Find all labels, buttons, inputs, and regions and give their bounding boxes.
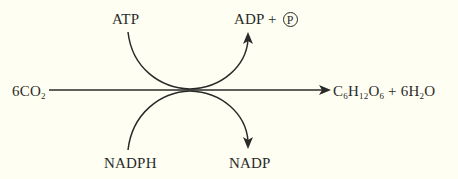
reactant-co2-label: 6CO2 bbox=[12, 83, 46, 99]
atp-label: ATP bbox=[112, 11, 139, 27]
product-glucose-water-label: C6H12O6 + 6H2O bbox=[333, 83, 435, 99]
adp-phosphate-label: ADP + P bbox=[234, 11, 298, 27]
water-h: 6H bbox=[401, 83, 420, 99]
circled-phosphate-icon: P bbox=[283, 12, 298, 27]
photosynthesis-reaction-diagram: 6CO2 C6H12O6 + 6H2O ATP ADP + P NADPH NA… bbox=[0, 0, 458, 179]
water-o: O bbox=[424, 83, 435, 99]
atp-input-arc bbox=[128, 32, 190, 89]
adp-text: ADP + bbox=[234, 11, 281, 27]
co2-formula: CO bbox=[20, 83, 41, 99]
co2-coefficient: 6 bbox=[12, 83, 20, 99]
glucose-h: H bbox=[348, 83, 359, 99]
nadph-input-arc bbox=[128, 91, 190, 150]
nadp-label: NADP bbox=[229, 155, 271, 171]
glucose-c: C bbox=[333, 83, 343, 99]
co2-subscript: 2 bbox=[41, 91, 46, 101]
adp-output-arc bbox=[190, 40, 248, 89]
plus-sign: + bbox=[384, 83, 401, 99]
nadp-output-arc bbox=[190, 91, 248, 141]
glucose-o: O bbox=[368, 83, 379, 99]
glucose-h-subscript: 12 bbox=[359, 91, 368, 101]
nadph-label: NADPH bbox=[104, 155, 157, 171]
